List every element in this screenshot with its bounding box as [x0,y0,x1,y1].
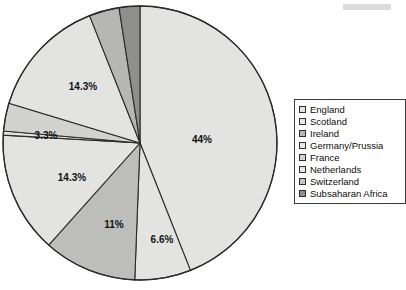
scan-artifact [343,4,391,10]
slice-label-netherlands: 3.3% [35,130,58,141]
pie-plot-area: 44%6.6%11%14.3%3.3%14.3% [0,0,290,290]
chart-legend: EnglandScotlandIrelandGermany/PrussiaFra… [294,99,406,204]
legend-swatch-icon [299,190,306,197]
slice-label-germany-prussia: 14.3% [58,172,86,183]
legend-swatch-icon [299,166,306,173]
legend-item-scotland[interactable]: Scotland [299,116,402,127]
legend-swatch-icon [299,154,306,161]
slice-label-switzerland: 14.3% [69,81,97,92]
legend-swatch-icon [299,118,306,125]
slice-label-england: 44% [192,134,212,145]
legend-item-label: Germany/Prussia [310,140,383,151]
legend-item-label: Netherlands [310,164,361,175]
legend-swatch-icon [299,178,306,185]
legend-item-label: Ireland [310,128,339,139]
legend-item-label: Scotland [310,116,347,127]
legend-item-england[interactable]: England [299,104,402,115]
pie-slice-group [3,6,277,280]
legend-item-germany-prussia[interactable]: Germany/Prussia [299,140,402,151]
slice-label-scotland: 6.6% [151,234,174,245]
legend-item-netherlands[interactable]: Netherlands [299,164,402,175]
legend-item-subsaharan-africa[interactable]: Subsaharan Africa [299,188,402,199]
legend-swatch-icon [299,142,306,149]
legend-item-label: Subsaharan Africa [310,188,388,199]
legend-swatch-icon [299,130,306,137]
legend-item-ireland[interactable]: Ireland [299,128,402,139]
legend-item-switzerland[interactable]: Switzerland [299,176,402,187]
pie-svg: 44%6.6%11%14.3%3.3%14.3% [0,0,290,290]
legend-item-france[interactable]: France [299,152,402,163]
slice-label-ireland: 11% [104,219,124,230]
legend-item-label: England [310,104,345,115]
legend-item-label: France [310,152,340,163]
legend-item-label: Switzerland [310,176,359,187]
legend-swatch-icon [299,106,306,113]
